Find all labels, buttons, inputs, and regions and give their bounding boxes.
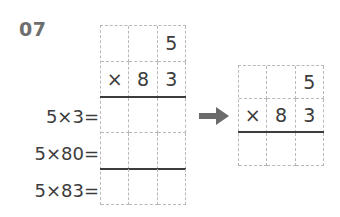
expanded-grid-cell-r5c1[interactable] xyxy=(101,169,129,205)
compact-grid-cell-r3c2[interactable] xyxy=(267,133,295,166)
expanded-grid-cell-r1c2[interactable] xyxy=(129,26,157,62)
expanded-grid-cell-r2c1[interactable]: × xyxy=(101,62,129,98)
step-label-group: 5×3= 5×80= 5×83= xyxy=(0,0,99,217)
expanded-grid-cell-r1c1[interactable] xyxy=(101,26,129,62)
compact-multiplication-grid: 5×83 xyxy=(238,65,324,166)
compact-grid-cell-r1c3[interactable]: 5 xyxy=(296,66,324,99)
expanded-grid-cell-r4c2[interactable] xyxy=(129,133,157,169)
step-label-total: 5×83= xyxy=(34,182,99,200)
worksheet-canvas: 07 5×3= 5×80= 5×83= 5×83 5×83 xyxy=(0,0,340,217)
expanded-grid-cell-r3c2[interactable] xyxy=(129,98,157,134)
compact-grid-cell-r3c1[interactable] xyxy=(239,133,267,166)
step-label-partial-tens: 5×80= xyxy=(34,145,99,163)
expanded-grid-cell-r2c2[interactable]: 8 xyxy=(129,62,157,98)
expanded-grid-cell-r3c1[interactable] xyxy=(101,98,129,134)
expanded-grid-cell-r1c3[interactable]: 5 xyxy=(158,26,186,62)
compact-grid-cell-r1c2[interactable] xyxy=(267,66,295,99)
compact-grid-cell-r2c1[interactable]: × xyxy=(239,99,267,132)
expanded-grid-cell-r2c3[interactable]: 3 xyxy=(158,62,186,98)
compact-grid-cell-r3c3[interactable] xyxy=(296,133,324,166)
expanded-grid-cell-r4c1[interactable] xyxy=(101,133,129,169)
compact-grid-cell-r1c1[interactable] xyxy=(239,66,267,99)
expanded-grid-cell-r3c3[interactable] xyxy=(158,98,186,134)
expanded-grid-cell-r5c3[interactable] xyxy=(158,169,186,205)
expanded-multiplication-grid: 5×83 xyxy=(100,25,186,205)
expanded-grid-cell-r5c2[interactable] xyxy=(129,169,157,205)
compact-grid-cell-r2c2[interactable]: 8 xyxy=(267,99,295,132)
arrow-right-icon xyxy=(199,105,229,127)
expanded-grid-cell-r4c3[interactable] xyxy=(158,133,186,169)
step-label-partial-ones: 5×3= xyxy=(46,108,99,126)
compact-grid-cell-r2c3[interactable]: 3 xyxy=(296,99,324,132)
